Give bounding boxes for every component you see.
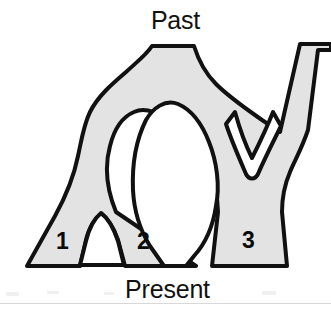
page-scan-rule bbox=[0, 303, 331, 304]
branch-label-2: 2 bbox=[137, 230, 150, 253]
branch-label-3: 3 bbox=[242, 229, 255, 252]
label-past: Past bbox=[0, 8, 331, 33]
evolutionary-tree-figure: Past Present 1 2 3 bbox=[0, 0, 331, 316]
lineage-diagram-svg bbox=[0, 0, 331, 316]
scan-artifact bbox=[104, 292, 114, 295]
scan-artifact bbox=[47, 291, 59, 294]
label-present: Present bbox=[0, 277, 331, 302]
branch-label-1: 1 bbox=[56, 230, 69, 253]
scan-artifact bbox=[6, 292, 19, 296]
scan-artifact bbox=[262, 291, 276, 295]
